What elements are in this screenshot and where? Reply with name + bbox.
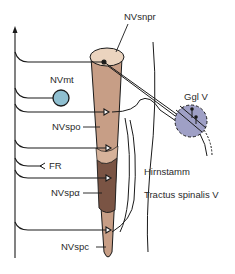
label-hirnstamm: Hirnstamm	[144, 167, 190, 177]
nvmt-nucleus	[53, 90, 69, 106]
label-ggl-v: Ggl V	[184, 92, 208, 102]
label-tractus-spinalis: Tractus spinalis V	[144, 190, 219, 200]
label-nvmt: NVmt	[50, 75, 74, 85]
trigeminal-column	[90, 48, 124, 257]
label-nvspc: NVspc	[61, 242, 89, 252]
fr-arrow-icon	[40, 163, 45, 169]
label-fr: FR	[49, 161, 62, 171]
label-nvspa: NVspα	[51, 188, 80, 198]
label-nvsnpr: NVsnpr	[124, 12, 156, 22]
diagram-canvas	[0, 0, 235, 274]
label-nvspo: NVspo	[52, 122, 81, 132]
ganglion-v	[175, 105, 212, 156]
